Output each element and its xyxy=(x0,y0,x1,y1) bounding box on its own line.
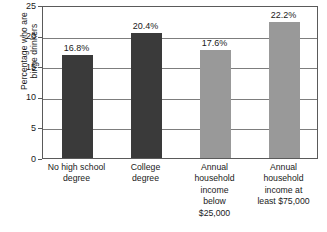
y-tick-label: 20 xyxy=(26,32,36,41)
bar-chart: Percentage who are binge drinkers 051015… xyxy=(0,0,327,232)
x-category-label-line: No high school xyxy=(42,162,111,173)
bars-layer xyxy=(43,7,317,158)
y-tick-label: 15 xyxy=(26,63,36,72)
bar-value-label: 20.4% xyxy=(121,22,171,31)
x-category-label: Annualhouseholdincome atleast $75,000 xyxy=(249,162,318,208)
plot-area xyxy=(42,6,318,159)
y-tick-label: 0 xyxy=(31,155,36,164)
x-category-label-line: income at xyxy=(249,185,318,196)
x-category-label-line: least $75,000 xyxy=(249,196,318,207)
x-category-label-line: income xyxy=(180,185,249,196)
bar xyxy=(131,33,162,158)
bar-value-label: 16.8% xyxy=(52,44,102,53)
x-category-label-line: College xyxy=(111,162,180,173)
bar xyxy=(269,22,300,158)
bar xyxy=(62,55,93,158)
x-category-label-line: degree xyxy=(111,173,180,184)
y-tick-label: 10 xyxy=(26,93,36,102)
x-category-label-line: below xyxy=(180,196,249,207)
bar xyxy=(200,50,231,158)
x-category-label: Annualhouseholdincomebelow$25,000 xyxy=(180,162,249,219)
x-category-label-line: household xyxy=(180,173,249,184)
bar-value-label: 22.2% xyxy=(259,11,309,20)
x-axis-category-labels: No high schooldegreeCollegedegreeAnnualh… xyxy=(42,162,318,232)
x-category-label: No high schooldegree xyxy=(42,162,111,185)
x-category-label-line: degree xyxy=(42,173,111,184)
y-tick-label: 5 xyxy=(31,124,36,133)
x-category-label-line: household xyxy=(249,173,318,184)
y-tick-label: 25 xyxy=(26,2,36,11)
bar-value-label: 17.6% xyxy=(190,39,240,48)
x-category-label: Collegedegree xyxy=(111,162,180,185)
x-category-label-line: $25,000 xyxy=(180,208,249,219)
y-axis-tick-labels: 0510152025 xyxy=(0,0,40,166)
x-category-label-line: Annual xyxy=(180,162,249,173)
x-category-label-line: Annual xyxy=(249,162,318,173)
y-tick-mark xyxy=(38,159,42,160)
